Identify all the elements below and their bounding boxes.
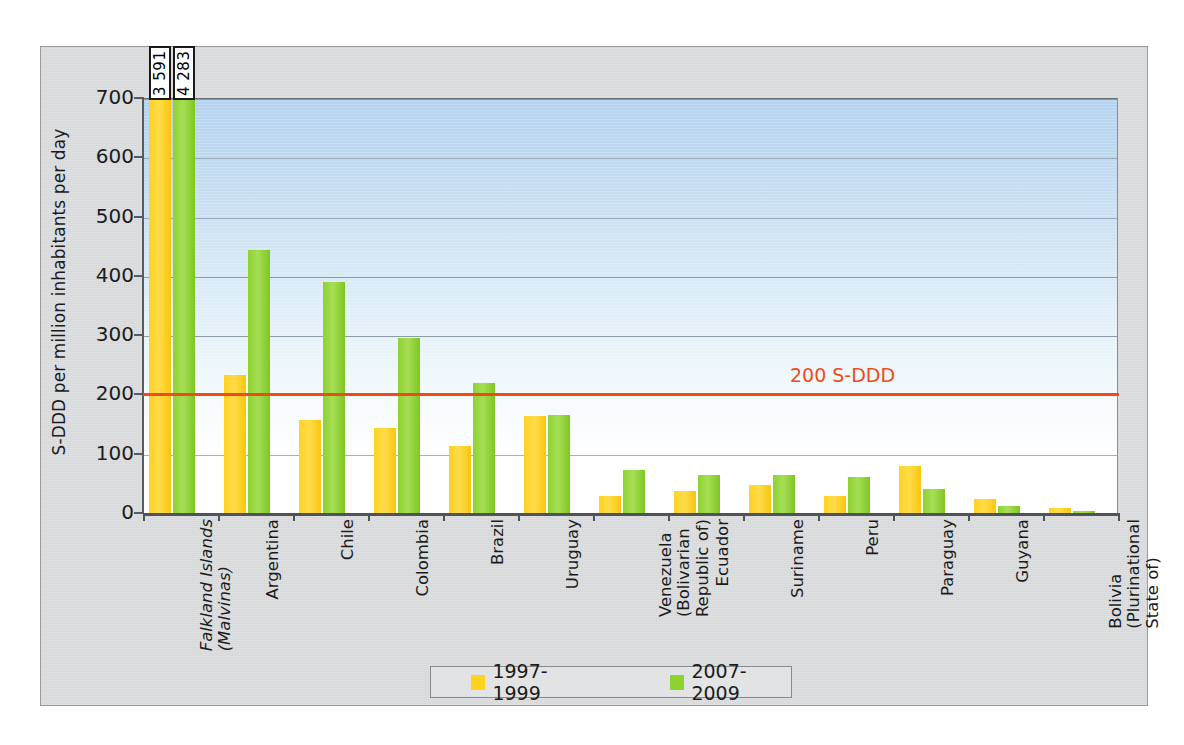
bar-group: [968, 98, 1043, 513]
bar-1997-1999[interactable]: [449, 446, 471, 513]
bar-group: [818, 98, 893, 513]
bar-2007-2009[interactable]: [173, 98, 195, 513]
legend-label: 2007-2009: [691, 660, 791, 704]
x-axis-label: Argentina: [264, 519, 282, 600]
x-axis-label: Venezuela(BolivarianRepublic of): [657, 519, 712, 617]
x-axis-label-line: Brazil: [488, 519, 507, 565]
y-axis-labels: 0100200300400500600700: [66, 0, 134, 745]
x-axis-label: Colombia: [414, 519, 432, 597]
bar-group: [368, 98, 443, 513]
bar-2007-2009[interactable]: [473, 383, 495, 513]
bar-1997-1999[interactable]: [599, 496, 621, 513]
x-axis-category-labels: Falkland Islands(Malvinas)ArgentinaChile…: [143, 519, 1118, 669]
bar-group: [893, 98, 968, 513]
y-axis-tick: [134, 97, 143, 99]
bar-group: [293, 98, 368, 513]
legend-label: 1997-1999: [492, 660, 592, 704]
bar-group: [1043, 98, 1118, 513]
reference-line-label: 200 S-DDD: [790, 364, 895, 386]
y-axis-tick-label: 100: [76, 441, 134, 465]
x-axis-label-line: Ecuador: [713, 519, 732, 586]
x-axis-label: Chile: [339, 519, 357, 560]
bar-2007-2009[interactable]: [923, 489, 945, 513]
x-axis-label-line: Colombia: [413, 519, 432, 597]
reference-line-200: [143, 393, 1119, 396]
x-axis-label-line: Falkland Islands: [197, 519, 216, 651]
bar-1997-1999[interactable]: [149, 98, 171, 513]
x-axis-label-line: (Bolivarian: [675, 519, 693, 617]
chart-page: S-DDD per million inhabitants per day 01…: [0, 0, 1184, 745]
bar-2007-2009[interactable]: [1073, 511, 1095, 513]
y-axis-tick: [134, 156, 143, 158]
bar-group: [518, 98, 593, 513]
bar-2007-2009[interactable]: [998, 506, 1020, 513]
y-axis-tick: [134, 453, 143, 455]
falkland-1997-value: 3 591: [149, 46, 171, 100]
legend-item-2007-2009[interactable]: 2007-2009: [670, 660, 791, 704]
bar-2007-2009[interactable]: [773, 475, 795, 513]
y-axis-tick: [134, 275, 143, 277]
bar-1997-1999[interactable]: [524, 416, 546, 513]
y-axis-tick-label: 500: [76, 204, 134, 228]
bar-2007-2009[interactable]: [398, 338, 420, 513]
bar-1997-1999[interactable]: [1049, 508, 1071, 513]
x-axis-label: Brazil: [489, 519, 507, 565]
bar-1997-1999[interactable]: [299, 420, 321, 513]
x-axis-label-line: State of): [1143, 519, 1161, 629]
bar-2007-2009[interactable]: [548, 415, 570, 513]
x-axis-label: Falkland Islands(Malvinas): [198, 519, 235, 651]
x-axis-label: Ecuador: [714, 519, 732, 586]
x-axis-label-line: Guyana: [1013, 519, 1032, 583]
bar-2007-2009[interactable]: [248, 250, 270, 513]
y-axis-tick: [134, 393, 143, 395]
bar-1997-1999[interactable]: [974, 499, 996, 513]
bar-2007-2009[interactable]: [848, 477, 870, 513]
bar-group: [143, 98, 218, 513]
y-axis-tick-label: 600: [76, 144, 134, 168]
x-axis-label-line: Uruguay: [563, 519, 582, 589]
x-axis-label: Guyana: [1014, 519, 1032, 583]
bar-group: [743, 98, 818, 513]
chart-legend: 1997-1999 2007-2009: [430, 666, 792, 698]
x-axis-label-line: Suriname: [788, 519, 807, 598]
bar-2007-2009[interactable]: [323, 282, 345, 513]
y-axis-tick-label: 200: [76, 381, 134, 405]
x-axis-label-line: Peru: [863, 519, 882, 556]
x-axis-label-line: Bolivia: [1106, 574, 1125, 629]
bar-1997-1999[interactable]: [674, 491, 696, 513]
y-axis-tick-label: 400: [76, 263, 134, 287]
falkland-2007-value: 4 283: [173, 46, 195, 100]
bar-1997-1999[interactable]: [824, 496, 846, 513]
y-axis-tick-label: 700: [76, 85, 134, 109]
x-axis-label-line: Republic of): [693, 519, 711, 617]
x-axis-label: Bolivia(PlurinationalState of): [1107, 519, 1162, 629]
bar-2007-2009[interactable]: [698, 475, 720, 513]
bar-series-container: [143, 98, 1118, 513]
y-axis-tick-label: 300: [76, 322, 134, 346]
legend-swatch-icon: [471, 675, 485, 690]
x-axis-label-line: (Malvinas): [216, 519, 234, 651]
bar-1997-1999[interactable]: [374, 428, 396, 513]
bar-2007-2009[interactable]: [623, 470, 645, 513]
legend-swatch-icon: [670, 675, 684, 690]
x-axis-label-line: Venezuela: [656, 532, 675, 617]
bar-group: [593, 98, 668, 513]
bar-group: [668, 98, 743, 513]
bar-1997-1999[interactable]: [749, 485, 771, 513]
bar-group: [218, 98, 293, 513]
x-axis-label: Uruguay: [564, 519, 582, 589]
x-axis-label: Paraguay: [939, 519, 957, 596]
x-axis-label-line: (Plurinational: [1125, 519, 1143, 629]
y-axis-tick: [134, 216, 143, 218]
y-axis-tick-label: 0: [76, 500, 134, 524]
x-axis-label: Peru: [864, 519, 882, 556]
x-axis-line: [143, 513, 1119, 516]
x-axis-label-line: Paraguay: [938, 519, 957, 596]
y-axis-tick: [134, 334, 143, 336]
x-axis-label-line: Argentina: [263, 519, 282, 600]
bar-1997-1999[interactable]: [899, 466, 921, 513]
legend-item-1997-1999[interactable]: 1997-1999: [471, 660, 592, 704]
x-axis-label-line: Chile: [338, 519, 357, 560]
x-axis-label: Suriname: [789, 519, 807, 598]
bar-group: [443, 98, 518, 513]
